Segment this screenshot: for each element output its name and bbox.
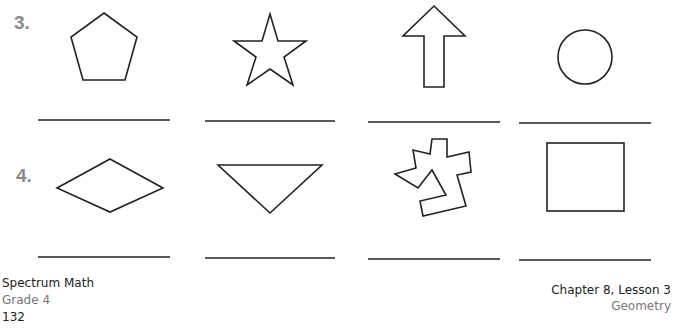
circle-shape: [558, 30, 612, 84]
square-shape: [547, 143, 624, 211]
chapter-lesson: Chapter 8, Lesson 3: [551, 282, 671, 298]
rhombus-shape: [57, 159, 163, 212]
page-number: 132: [2, 309, 94, 326]
pentagon-shape: [71, 13, 137, 80]
irregular-polygon-shape: [395, 139, 471, 216]
footer-left: Spectrum Math Grade 4 132: [2, 275, 94, 326]
book-title: Spectrum Math: [2, 275, 94, 292]
subject-label: Geometry: [551, 298, 671, 314]
star-shape: [234, 14, 306, 85]
triangle-shape: [218, 165, 322, 213]
arrow-shape: [403, 6, 465, 87]
grade-label: Grade 4: [2, 292, 94, 309]
footer-right: Chapter 8, Lesson 3 Geometry: [551, 282, 671, 314]
